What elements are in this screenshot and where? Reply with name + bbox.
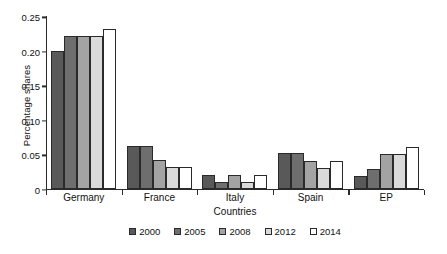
bar <box>354 176 367 189</box>
legend-swatch-icon <box>174 228 181 235</box>
bar <box>127 146 140 189</box>
bar <box>153 160 166 189</box>
bar <box>215 182 228 189</box>
bar <box>166 167 179 188</box>
bar <box>202 175 215 189</box>
bar <box>317 168 330 189</box>
bar-group <box>197 16 273 189</box>
bar <box>254 175 267 189</box>
plot-area: 00.050.100.150.200.25 <box>46 16 424 190</box>
bar <box>304 161 317 189</box>
legend: 20002005200820122014 <box>46 226 424 237</box>
bar <box>90 36 103 189</box>
legend-swatch-icon <box>265 228 272 235</box>
bar <box>77 36 90 189</box>
bar <box>393 154 406 189</box>
bar <box>51 51 64 189</box>
legend-label: 2005 <box>184 226 205 237</box>
x-axis-title: Countries <box>46 206 424 217</box>
bar <box>291 153 304 188</box>
bar <box>179 167 192 188</box>
bar-group <box>348 16 424 189</box>
x-axis-label: EP <box>348 192 424 203</box>
legend-item: 2012 <box>265 226 296 237</box>
bar <box>278 153 291 188</box>
x-tick-mark <box>424 190 425 195</box>
legend-label: 2014 <box>320 226 341 237</box>
legend-item: 2000 <box>129 226 160 237</box>
bar <box>367 169 380 189</box>
bar <box>241 182 254 188</box>
x-axis-label: Italy <box>197 192 273 203</box>
bar-group <box>273 16 349 189</box>
legend-swatch-icon <box>310 228 317 235</box>
x-axis-label: Spain <box>273 192 349 203</box>
bar-group <box>122 16 198 189</box>
legend-item: 2014 <box>310 226 341 237</box>
legend-label: 2000 <box>139 226 160 237</box>
legend-item: 2008 <box>219 226 250 237</box>
bar <box>406 147 419 189</box>
legend-item: 2005 <box>174 226 205 237</box>
x-axis-labels: GermanyFranceItalySpainEP <box>46 192 424 203</box>
bar <box>64 36 77 189</box>
bar-group <box>46 16 122 189</box>
legend-label: 2012 <box>275 226 296 237</box>
bar <box>330 161 343 189</box>
legend-swatch-icon <box>129 228 136 235</box>
bar-chart: Percentage shares 00.050.100.150.200.25 … <box>0 0 447 254</box>
bar <box>380 154 393 189</box>
bar <box>103 29 116 188</box>
x-axis-line <box>46 189 424 190</box>
legend-swatch-icon <box>219 228 226 235</box>
bar <box>228 175 241 189</box>
x-axis-label: Germany <box>46 192 122 203</box>
bar-groups <box>46 16 424 189</box>
bar <box>140 146 153 189</box>
legend-label: 2008 <box>229 226 250 237</box>
x-axis-label: France <box>122 192 198 203</box>
